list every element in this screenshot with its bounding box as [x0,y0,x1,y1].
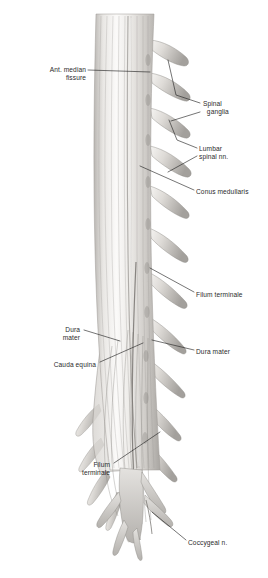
label-conus-medullaris: Conus medullaris [196,188,268,196]
leader-spinal-ganglia-b [171,112,200,121]
label-coccygeal-n: Coccygeal n. [188,539,258,547]
label-dura-mater-right: Dura mater [196,348,260,356]
spinal-cord-shaft [94,14,160,470]
label-dura-mater-left: Dura mater [40,326,80,343]
label-cauda-equina: Cauda equina [30,361,96,369]
label-lumbar-spinal-nn: Lumbar spinal nn. [199,145,261,162]
terminal-root-bundle [97,468,173,560]
label-spinal-ganglia: Spinal ganglia [203,100,263,117]
label-filum-terminale-lower: Filum terminale [62,461,110,478]
label-filum-terminale-upper: Filum terminale [196,291,268,299]
spinal-cord-drawing [0,0,268,578]
leader-coccygeal [152,512,186,540]
label-ant-median-fissure: Ant. median fissure [14,66,86,83]
anatomical-illustration: Ant. median fissure Spinal ganglia Lumba… [0,0,268,578]
